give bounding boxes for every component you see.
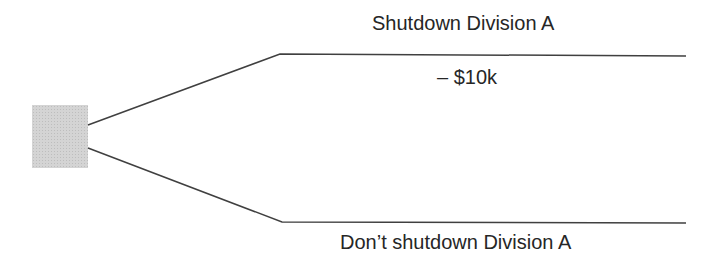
branch-line-dont-shutdown [88,148,686,223]
branch-line-shutdown [88,54,686,125]
decision-node-square [32,105,88,168]
branch-value-shutdown: – $10k [437,66,497,89]
branch-label-shutdown: Shutdown Division A [372,12,554,35]
decision-tree-lines [0,0,714,263]
branch-label-dont-shutdown: Don’t shutdown Division A [340,231,571,254]
